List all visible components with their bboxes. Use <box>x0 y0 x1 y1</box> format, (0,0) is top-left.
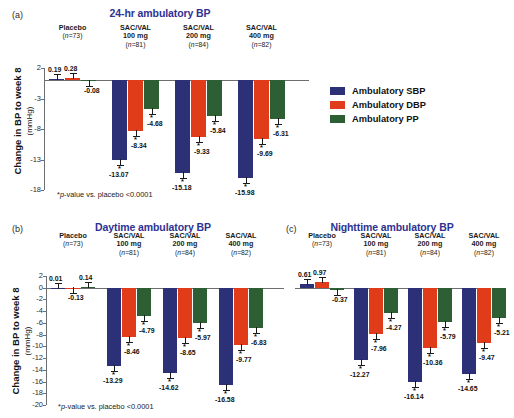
bar-value-label: -5.97 <box>195 334 211 341</box>
bar-value-label: 0.97 <box>313 269 326 276</box>
group-header: SAC/VAL400 mg(n=82) <box>207 232 275 257</box>
group-header: Placebo(n=73) <box>37 24 108 41</box>
group-dose: 400 mg <box>249 31 274 40</box>
group-dose: 100 mg <box>364 239 389 248</box>
group-n: (n=82) <box>231 249 251 256</box>
group-dose: 100 mg <box>117 239 142 248</box>
error-bar-cap <box>70 73 77 74</box>
bar-value-label: -14.65 <box>458 385 478 392</box>
y-axis-tick <box>41 190 44 191</box>
bar-pp <box>438 288 452 322</box>
group-dose: 400 mg <box>472 239 497 248</box>
bar-sbp <box>112 80 127 160</box>
legend-label-pp: Ambulatory PP <box>352 112 419 126</box>
bar-sbp <box>462 288 476 374</box>
y-axis-tick <box>43 311 46 312</box>
legend-swatch-pp-icon <box>330 115 345 123</box>
y-axis-tick-label: -13 <box>11 155 41 164</box>
y-axis-tick <box>43 393 46 394</box>
bar-value-label: -4.27 <box>386 324 402 331</box>
bar-value-label: -7.96 <box>371 345 387 352</box>
group-dose: 200 mg <box>418 239 443 248</box>
error-bar-cap <box>55 283 62 284</box>
group-dose: 200 mg <box>186 31 211 40</box>
group-dose: 100 mg <box>123 31 148 40</box>
bar-dbp <box>369 288 383 335</box>
y-axis-tick-label: 0 <box>13 283 43 292</box>
bar-value-label: -9.69 <box>257 150 273 157</box>
y-axis-tick <box>41 129 44 130</box>
significance-star: * <box>443 328 446 333</box>
legend-item-dbp: Ambulatory DBP <box>330 98 480 112</box>
bar-pp <box>144 80 159 109</box>
group-n: (n=84) <box>189 41 209 48</box>
y-axis-tick-label: -8 <box>11 124 41 133</box>
bar-sbp <box>408 288 422 383</box>
y-axis-tick <box>43 382 46 383</box>
y-axis-tick-label: -18 <box>13 388 43 397</box>
footnote-pvalue: *p-value vs. placebo <0.0001 <box>58 402 154 411</box>
error-bar-cap <box>304 279 311 280</box>
bar-value-label: -5.21 <box>494 329 510 336</box>
y-axis-tick-label: -2 <box>13 294 43 303</box>
y-axis-tick-label: -18 <box>11 185 41 194</box>
group-name: Placebo <box>59 23 87 32</box>
y-axis-tick-label: -8 <box>13 330 43 339</box>
panel-nighttime-ambulatory-bp: (c) Nighttime ambulatory BP Placebo(n=73… <box>284 210 484 418</box>
group-n: (n=73) <box>312 240 332 247</box>
bar-sbp <box>175 80 190 173</box>
bar-dbp <box>122 288 136 338</box>
legend-label-sbp: Ambulatory SBP <box>352 84 425 98</box>
bar-value-label: -16.14 <box>404 393 424 400</box>
y-axis-tick <box>43 405 46 406</box>
y-axis-tick <box>43 370 46 371</box>
bar-value-label: -4.68 <box>147 120 163 127</box>
bar-value-label: 0.61 <box>298 271 311 278</box>
bar-value-label: -0.13 <box>68 294 84 301</box>
bar-value-label: -9.33 <box>194 148 210 155</box>
group-dose: 200 mg <box>173 239 198 248</box>
group-dose: 400 mg <box>229 239 254 248</box>
bar-dbp <box>128 80 143 131</box>
y-axis-tick <box>41 160 44 161</box>
bar-value-label: 0.14 <box>79 274 92 281</box>
bar-sbp <box>107 288 121 366</box>
bar-value-label: -13.29 <box>103 377 123 384</box>
y-axis-tick <box>43 358 46 359</box>
y-axis-tick <box>43 335 46 336</box>
bar-dbp <box>254 80 269 139</box>
bar-sbp <box>163 288 177 374</box>
bar-sbp <box>219 288 233 385</box>
bar-dbp <box>191 80 206 137</box>
y-axis-tick-label: -20 <box>13 400 43 409</box>
bar-value-label: -6.83 <box>251 339 267 346</box>
group-name: Placebo <box>59 231 87 240</box>
group-n: (n=81) <box>119 249 139 256</box>
significance-star: * <box>467 380 470 385</box>
significance-star: * <box>150 115 153 120</box>
error-bar-cap <box>319 277 326 278</box>
bar-value-label: -9.47 <box>479 354 495 361</box>
y-axis-tick-label: 2 <box>13 271 43 280</box>
bar-value-label: -10.36 <box>423 359 443 366</box>
significance-star: * <box>112 372 115 377</box>
bar-value-label: -0.08 <box>84 87 100 94</box>
group-header: SAC/VAL200 mg(n=84) <box>163 24 234 49</box>
bar-value-label: 0.01 <box>49 275 62 282</box>
y-axis-tick-label: -6 <box>13 318 43 327</box>
bar-value-label: -6.31 <box>273 130 289 137</box>
bar-value-label: -5.84 <box>210 127 226 134</box>
footnote-pvalue: *p-value vs. placebo <0.0001 <box>57 190 153 199</box>
group-n: (n=81) <box>126 41 146 48</box>
bar-value-label: -12.27 <box>350 371 370 378</box>
panel-daytime-ambulatory-bp: (b) Daytime ambulatory BP Change in BP t… <box>0 210 290 418</box>
bar-value-label: -15.18 <box>172 184 192 191</box>
bar-pp <box>384 288 398 313</box>
legend-label-dbp: Ambulatory DBP <box>352 98 426 112</box>
bar-value-label: -5.79 <box>440 333 456 340</box>
bar-value-label: -14.62 <box>159 384 179 391</box>
y-axis-tick <box>43 346 46 347</box>
significance-star: * <box>198 329 201 334</box>
bar-pp <box>137 288 151 316</box>
group-n: (n=73) <box>63 32 83 39</box>
